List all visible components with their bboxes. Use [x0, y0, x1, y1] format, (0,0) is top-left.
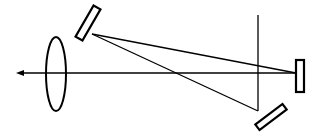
- ray-top-to-right-mirror: [92, 34, 296, 73]
- arrowhead-left-icon: [16, 70, 24, 76]
- right-mirror: [296, 60, 304, 92]
- lens: [46, 37, 66, 111]
- optical-diagram: [0, 0, 323, 140]
- bottom-mirror: [255, 104, 286, 130]
